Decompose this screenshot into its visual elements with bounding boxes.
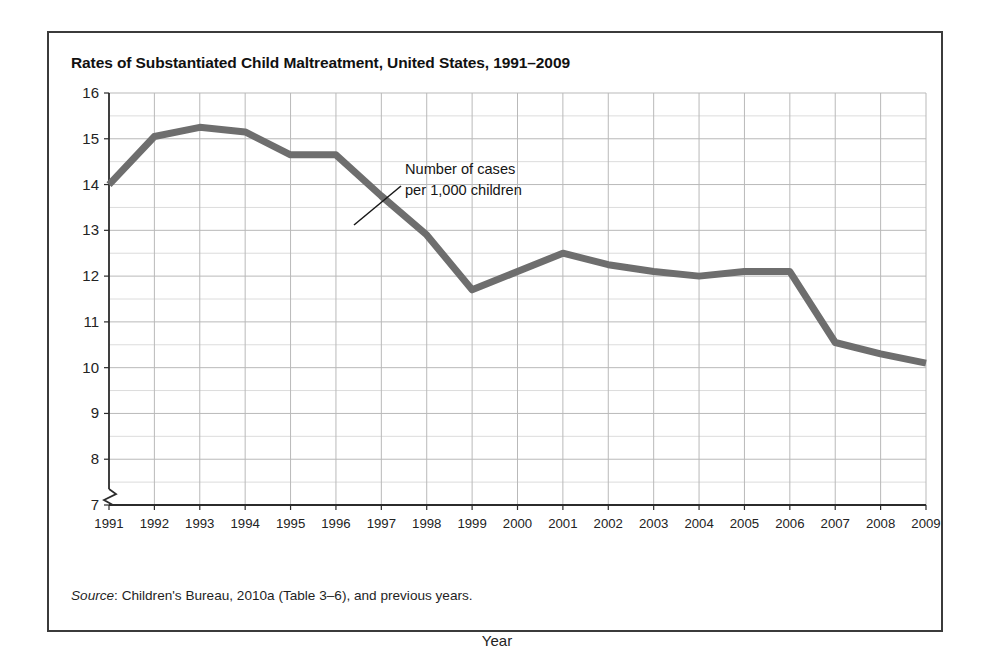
x-axis-tick-label: 1993 bbox=[177, 517, 223, 530]
x-axis-tick-label: 1991 bbox=[86, 517, 132, 530]
source-note: Source: Children's Bureau, 2010a (Table … bbox=[71, 588, 473, 603]
x-axis-tick-label: 2003 bbox=[631, 517, 677, 530]
x-axis-title: Year bbox=[49, 632, 945, 649]
x-axis-tick-label: 2006 bbox=[767, 517, 813, 530]
x-axis-tick-label: 2005 bbox=[721, 517, 767, 530]
x-axis-tick-label: 1996 bbox=[313, 517, 359, 530]
y-axis-tick-label: 11 bbox=[69, 314, 99, 329]
x-axis-tick-label: 1999 bbox=[449, 517, 495, 530]
y-axis-tick-label: 15 bbox=[69, 131, 99, 146]
x-axis-tick-label: 2004 bbox=[676, 517, 722, 530]
source-label: Source bbox=[71, 588, 114, 603]
x-axis-tick-label: 2009 bbox=[903, 517, 949, 530]
annotation-line-2: per 1,000 children bbox=[405, 180, 522, 201]
x-axis-tick-label: 1994 bbox=[222, 517, 268, 530]
y-axis-tick-label: 10 bbox=[69, 360, 99, 375]
source-text: Children's Bureau, 2010a (Table 3–6), an… bbox=[118, 588, 473, 603]
y-axis-tick-label: 14 bbox=[69, 177, 99, 192]
x-axis-tick-label: 2007 bbox=[812, 517, 858, 530]
y-axis-tick-label: 13 bbox=[69, 222, 99, 237]
y-axis-tick-label: 8 bbox=[69, 451, 99, 466]
x-axis-tick-label: 2001 bbox=[540, 517, 586, 530]
x-axis-tick-label: 2002 bbox=[585, 517, 631, 530]
y-axis-tick-label: 7 bbox=[69, 497, 99, 512]
y-axis-tick-label: 9 bbox=[69, 405, 99, 420]
y-axis-tick-label: 12 bbox=[69, 268, 99, 283]
x-axis-tick-label: 1992 bbox=[131, 517, 177, 530]
x-axis-tick-label: 1998 bbox=[404, 517, 450, 530]
series-annotation: Number of cases per 1,000 children bbox=[405, 159, 522, 200]
chart-title: Rates of Substantiated Child Maltreatmen… bbox=[71, 54, 570, 72]
line-chart-svg bbox=[49, 85, 945, 555]
x-axis-tick-label: 2008 bbox=[858, 517, 904, 530]
plot-area: 16151413121110987 1991199219931994199519… bbox=[49, 85, 945, 555]
annotation-line-1: Number of cases bbox=[405, 159, 522, 180]
x-axis-tick-label: 2000 bbox=[495, 517, 541, 530]
x-axis-tick-label: 1995 bbox=[268, 517, 314, 530]
x-axis-tick-label: 1997 bbox=[358, 517, 404, 530]
axis-ticks bbox=[104, 93, 926, 510]
y-axis-tick-label: 16 bbox=[69, 85, 99, 100]
figure-frame: Rates of Substantiated Child Maltreatmen… bbox=[47, 31, 943, 632]
